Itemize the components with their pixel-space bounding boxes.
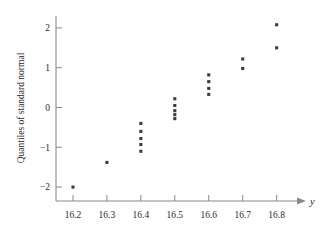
y-tick-label: −2 <box>40 182 50 192</box>
data-point <box>241 67 244 70</box>
data-point <box>139 150 142 153</box>
y-axis-ticks: −2−1012 <box>40 23 62 192</box>
y-tick-label: 0 <box>45 103 50 113</box>
data-point <box>207 80 210 83</box>
y-tick-label: −1 <box>40 143 50 153</box>
data-point <box>207 93 210 96</box>
x-axis-title: y <box>309 196 315 207</box>
data-point <box>173 109 176 112</box>
x-tick-label: 16.7 <box>234 210 251 220</box>
data-point <box>71 186 74 189</box>
x-tick-label: 16.4 <box>133 210 150 220</box>
data-point <box>275 46 278 49</box>
x-tick-label: 16.6 <box>200 210 217 220</box>
x-tick-label: 16.3 <box>99 210 116 220</box>
data-point <box>173 104 176 107</box>
data-point <box>139 122 142 125</box>
y-tick-label: 2 <box>45 23 50 33</box>
y-axis-title: Quantiles of standard normal <box>16 52 26 163</box>
data-point <box>207 73 210 76</box>
data-point <box>241 57 244 60</box>
y-tick-label: 1 <box>45 63 50 73</box>
data-points-layer <box>71 23 278 188</box>
x-axis-arrow-icon <box>297 198 306 205</box>
data-point <box>139 137 142 140</box>
data-point <box>207 87 210 90</box>
data-point <box>173 97 176 100</box>
x-tick-label: 16.5 <box>166 210 183 220</box>
data-point <box>139 143 142 146</box>
x-tick-label: 16.2 <box>65 210 82 220</box>
x-tick-label: 16.8 <box>268 210 285 220</box>
data-point <box>173 113 176 116</box>
data-point <box>105 161 108 164</box>
data-point <box>173 117 176 120</box>
data-point <box>139 130 142 133</box>
qq-plot-figure: −2−1012 16.216.316.416.516.616.716.8 Qua… <box>0 0 325 235</box>
x-axis-ticks: 16.216.316.416.516.616.716.8 <box>65 195 286 220</box>
data-point <box>275 23 278 26</box>
scatter-plot-canvas: −2−1012 16.216.316.416.516.616.716.8 Qua… <box>0 0 325 235</box>
